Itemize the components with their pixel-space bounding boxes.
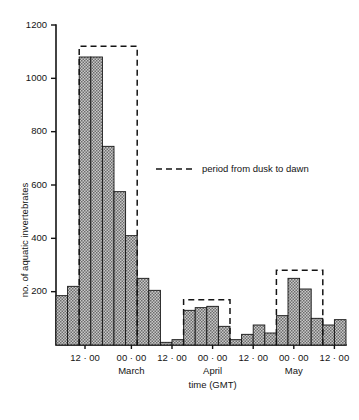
bar <box>265 333 277 345</box>
x-tick-label: 12 · 00 <box>70 352 100 363</box>
y-tick-label: 600 <box>31 179 47 190</box>
bar <box>230 340 242 345</box>
bar <box>300 289 312 345</box>
bar <box>195 308 207 345</box>
bar <box>207 306 219 345</box>
x-tick-label: 12 · 00 <box>157 352 187 363</box>
chart-figure: no. of aquatic invertebrates 20040060080… <box>0 0 359 420</box>
y-tick-label: 200 <box>31 285 47 296</box>
x-axis-ticks: 12 · 0000 · 0012 · 0000 · 0012 · 0000 · … <box>70 345 349 363</box>
bar <box>288 278 300 345</box>
x-tick-label: 00 · 00 <box>198 352 228 363</box>
x-tick-label: 00 · 00 <box>117 352 147 363</box>
bar <box>276 316 288 345</box>
month-label: May <box>285 365 303 376</box>
month-label: April <box>203 365 222 376</box>
legend: period from dusk to dawn <box>156 163 309 174</box>
bar <box>137 278 149 345</box>
y-tick-label: 800 <box>31 125 47 136</box>
month-label: March <box>118 365 144 376</box>
bar <box>56 296 68 345</box>
bar <box>323 325 335 345</box>
bar <box>311 318 323 345</box>
bar-chart: no. of aquatic invertebrates 20040060080… <box>0 0 359 420</box>
bar <box>242 334 254 345</box>
x-tick-label: 12 · 00 <box>238 352 268 363</box>
y-tick-label: 1000 <box>26 72 47 83</box>
bar <box>102 146 114 345</box>
bar <box>253 325 265 345</box>
bar <box>79 57 91 345</box>
bar <box>126 236 138 345</box>
bar <box>218 326 230 345</box>
bars-group <box>56 57 346 345</box>
x-tick-label: 12 · 00 <box>320 352 350 363</box>
y-tick-label: 400 <box>31 232 47 243</box>
month-labels: MarchAprilMay <box>118 365 303 376</box>
bar <box>334 320 346 345</box>
y-axis-label: no. of aquatic invertebrates <box>19 182 30 297</box>
bar <box>172 340 184 345</box>
y-tick-label: 1200 <box>26 19 47 30</box>
legend-label: period from dusk to dawn <box>202 163 309 174</box>
bar <box>160 342 172 345</box>
x-tick-label: 00 · 00 <box>279 352 309 363</box>
bar <box>184 310 196 345</box>
bar <box>91 57 103 345</box>
y-axis-ticks: 20040060080010001200 <box>26 19 56 297</box>
bar <box>114 192 126 345</box>
bar <box>149 290 161 345</box>
bar <box>68 286 80 345</box>
x-axis-label: time (GMT) <box>189 379 237 390</box>
